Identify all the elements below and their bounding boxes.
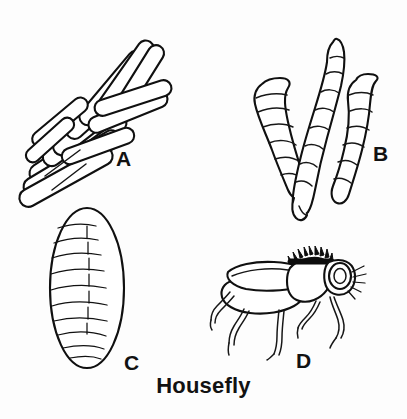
panel-b-larvae	[254, 39, 377, 220]
housefly-life-cycle-figure: A B C D Housefly	[0, 0, 407, 419]
figure-caption-title: Housefly	[0, 373, 407, 399]
figure-illustration	[0, 0, 407, 419]
panel-a-egg-cluster	[16, 37, 173, 210]
fly-thorax-bristles	[288, 246, 334, 264]
panel-label-c: C	[124, 352, 139, 373]
panel-label-d: D	[296, 350, 311, 371]
panel-c-pupa	[50, 208, 124, 368]
panel-d-adult-fly	[210, 246, 366, 360]
panel-label-b: B	[373, 143, 388, 164]
fly-compound-eye	[329, 263, 351, 289]
panel-label-a: A	[116, 148, 131, 169]
